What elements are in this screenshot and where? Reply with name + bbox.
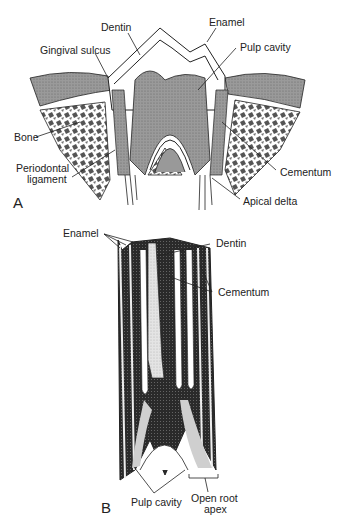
panel-letter-b: B <box>101 499 111 516</box>
label-gingival-sulcus: Gingival sulcus <box>40 45 111 56</box>
panel-letter-a: A <box>13 194 23 211</box>
label-cementum-b: Cementum <box>218 287 269 298</box>
label-bone: Bone <box>14 132 39 143</box>
label-apex: apex <box>204 504 227 515</box>
label-ligament: ligament <box>27 174 67 185</box>
label-dentin-b: Dentin <box>216 238 246 249</box>
label-apical-delta: Apical delta <box>243 196 297 207</box>
label-dentin: Dentin <box>101 22 131 33</box>
label-pulp-cavity-a: Pulp cavity <box>240 42 291 53</box>
label-cementum-a: Cementum <box>280 167 331 178</box>
label-enamel: Enamel <box>209 17 245 28</box>
tooth-illustration-a <box>0 0 340 517</box>
label-pulp-cavity-b: Pulp cavity <box>131 497 182 508</box>
label-enamel-b: Enamel <box>63 228 99 239</box>
